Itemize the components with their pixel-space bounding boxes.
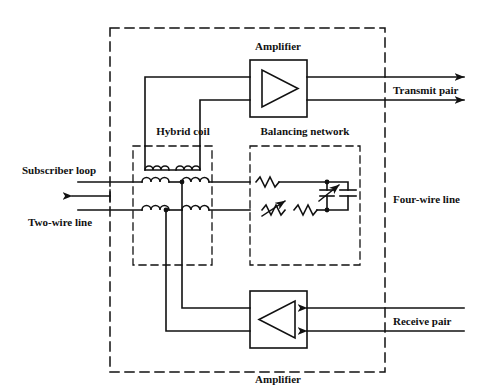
wire-hybrid-to-amp-top-lower (200, 100, 250, 146)
junction-dot-lower-centertap (164, 208, 169, 213)
capacitor-variable-arrow (319, 185, 339, 201)
junction-dot-cap-top (325, 180, 330, 185)
wire-centertap-upper-to-amp-bottom (182, 182, 250, 308)
hybrid-winding-mid-left (142, 178, 169, 182)
two-wire-line-label: Two-wire line (28, 216, 92, 228)
balancing-network-label: Balancing network (261, 125, 351, 137)
wire-centertap-lower-to-amp-bottom (166, 210, 250, 331)
wire-cap-fixed-bottom (327, 196, 348, 210)
hybrid-top-winding-frame (145, 146, 200, 170)
junction-dot-cap-bottom (325, 208, 330, 213)
hybrid-winding-mid-right (182, 178, 209, 182)
receive-pair-label: Receive pair (393, 315, 451, 327)
resistor-lower (294, 205, 317, 215)
amplifier-bottom-label: Amplifier (255, 373, 301, 385)
junction-dot-upper-centertap (180, 180, 185, 185)
terminating-set-boundary (110, 28, 385, 372)
hybrid-winding-low-right (182, 206, 209, 211)
amplifier-top-label: Amplifier (255, 40, 301, 52)
four-wire-line-label: Four-wire line (393, 193, 460, 205)
amplifier-bottom-triangle (259, 301, 295, 338)
amplifier-top-triangle (262, 70, 298, 107)
schematic-svg: Amplifier Amplifier Hybrid coil Balancin… (0, 0, 486, 390)
transmit-pair-label: Transmit pair (393, 84, 459, 96)
resistor-upper (256, 177, 279, 187)
subscriber-loop-label: Subscriber loop (22, 164, 96, 176)
hybrid-circuit-diagram: Amplifier Amplifier Hybrid coil Balancin… (0, 0, 486, 390)
hybrid-coil-label: Hybrid coil (156, 125, 209, 137)
